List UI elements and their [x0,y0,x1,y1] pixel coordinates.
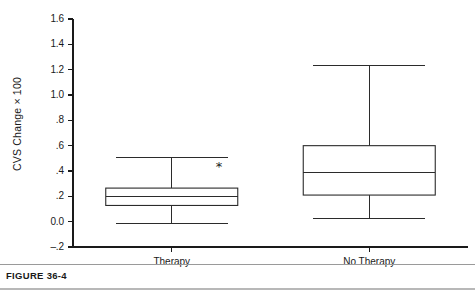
significance-star-marker: * [216,160,223,173]
y-tick-label: 1.2 [28,65,64,75]
y-tick-label: 1.4 [28,39,64,49]
y-tick-label: .8 [28,115,64,125]
figure-caption-block: FIGURE 36-4 [0,264,475,295]
axis-frame-lines [73,19,468,247]
y-tick-label: 0.0 [28,217,64,227]
caption-bottom-rule [0,288,475,290]
y-tick-label: 1.6 [28,14,64,24]
y-axis-ticks [68,19,73,247]
figure-container: CVS Change × 100 1.61.41.21.0.8.6.4.20.0… [0,0,475,295]
box-plot-canvas [0,0,475,295]
caption-top-rule [0,264,475,265]
interquartile-box [303,146,435,195]
y-tick-label: .4 [28,166,64,176]
x-axis-ticks [172,247,370,252]
y-tick-label: .2 [28,191,64,201]
y-tick-label: .6 [28,141,64,151]
figure-caption-text: FIGURE 36-4 [6,270,67,281]
plot-axes [73,19,468,247]
box-plot-series [106,66,436,224]
y-tick-label: 1.0 [28,90,64,100]
box-plot-no-therapy [303,66,435,219]
y-tick-label: –.2 [28,242,64,252]
